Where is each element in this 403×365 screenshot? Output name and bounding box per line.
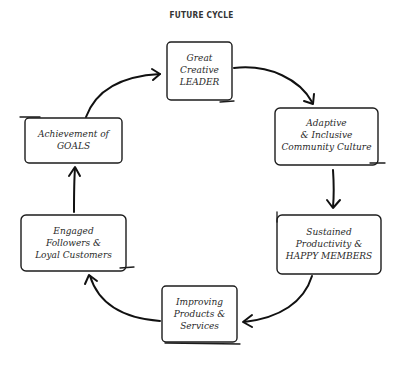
node-label: Loyal Customers (34, 250, 112, 260)
node-leader: Great Creative LEADER (167, 42, 234, 102)
node-label: LEADER (179, 77, 220, 87)
edge-followers-to-goals (74, 168, 75, 212)
node-label: Community Culture (281, 142, 371, 152)
node-productivity: Sustained Productivity & HAPPY MEMBERS (277, 212, 381, 274)
node-label: Followers & (45, 238, 101, 248)
node-goals: Achievement of GOALS (20, 117, 122, 163)
node-label: Achievement of (37, 129, 111, 139)
edge-productivity-to-products (244, 276, 312, 322)
node-label: Creative (180, 65, 219, 75)
edge-products-to-followers (90, 276, 160, 321)
node-label: GOALS (57, 141, 90, 151)
edge-culture-to-productivity (333, 170, 334, 207)
node-label: Engaged (52, 226, 94, 236)
node-label: Adaptive (305, 118, 346, 128)
node-label: Services (180, 321, 219, 331)
node-followers: Engaged Followers & Loyal Customers (21, 215, 134, 271)
node-label: Improving (175, 297, 223, 307)
node-label: & Inclusive (301, 130, 353, 140)
edge-leader-to-culture (234, 67, 312, 102)
node-label: Great (187, 53, 213, 63)
node-label: Sustained (306, 227, 352, 237)
node-label: HAPPY MEMBERS (285, 251, 372, 261)
cycle-diagram: Great Creative LEADER Adaptive & Inclusi… (0, 0, 403, 365)
edge-goals-to-leader (86, 74, 160, 117)
node-products: Improving Products & Services (162, 286, 240, 344)
node-label: Products & (173, 309, 225, 319)
node-label: Productivity & (295, 239, 362, 249)
node-culture: Adaptive & Inclusive Community Culture (275, 108, 385, 165)
